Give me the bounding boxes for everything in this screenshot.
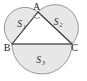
region-label-s1-base: S [17, 19, 22, 29]
geometry-figure-svg: A B C S 1 S 2 S 3 [0, 0, 87, 81]
region-label-s2-base: S [54, 17, 59, 27]
region-label-s2-subscript: 2 [60, 22, 63, 28]
semicircle-s3-on-bc [12, 44, 72, 74]
geometry-figure-container: A B C S 1 S 2 S 3 [0, 0, 87, 81]
region-label-s3-subscript: 3 [41, 60, 45, 66]
vertex-label-a: A [33, 1, 41, 12]
vertex-label-b: B [4, 42, 11, 53]
region-label-s1-subscript: 1 [23, 24, 26, 30]
vertex-label-c: C [71, 42, 78, 53]
region-label-s3-base: S [36, 55, 41, 65]
